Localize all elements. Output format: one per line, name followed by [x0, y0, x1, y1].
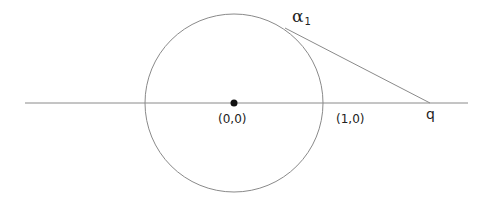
alpha-1-label: α1 — [292, 8, 311, 27]
alpha-symbol: α — [292, 6, 303, 26]
diagram-canvas — [0, 0, 490, 201]
origin-point — [231, 100, 238, 107]
alpha-subscript: 1 — [304, 16, 310, 27]
tangent-line — [285, 28, 430, 103]
q-point-label: q — [426, 107, 435, 121]
origin-label: (0,0) — [218, 113, 246, 125]
unit-point-label: (1,0) — [336, 113, 364, 125]
